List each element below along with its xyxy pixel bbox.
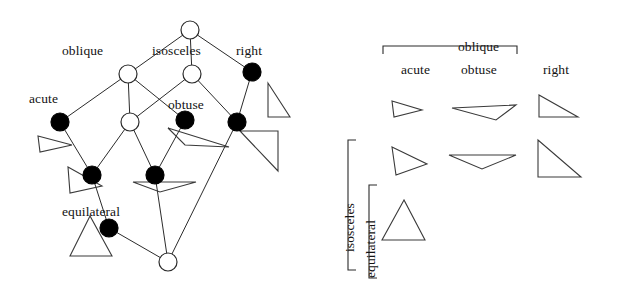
grid-column-header-acute: acute <box>401 63 430 77</box>
grid-triangle-equilateral-acute <box>382 200 425 240</box>
grid-column-header-obtuse: obtuse <box>461 63 497 77</box>
grid-triangle-scalene-obtuse <box>452 105 516 120</box>
grid-row-sub-label: equilateral <box>364 220 378 278</box>
grid-triangle-isosceles-obtuse <box>449 155 516 169</box>
lattice-label-isosceles: isosceles <box>152 44 201 58</box>
grid-triangle-scalene-right <box>539 95 578 117</box>
grid-column-header-right: right <box>543 63 569 77</box>
grid-triangle-isosceles-acute <box>392 147 427 175</box>
grid-row-group-label: isosceles <box>343 203 357 252</box>
lattice-label-obtuse: obtuse <box>168 98 204 112</box>
lattice-label-oblique: oblique <box>62 44 103 58</box>
grid-cell-group <box>382 95 581 240</box>
lattice-label-right: right <box>236 44 262 58</box>
grid-triangle-scalene-acute <box>392 101 422 117</box>
grid-column-group-label: oblique <box>458 40 499 54</box>
grid-triangle-isosceles-right <box>538 140 581 177</box>
lattice-label-acute: acute <box>29 92 58 106</box>
figure-root: obliqueisoscelesrightacuteobtuseequilate… <box>0 0 620 284</box>
lattice-label-equilateral: equilateral <box>62 205 120 219</box>
